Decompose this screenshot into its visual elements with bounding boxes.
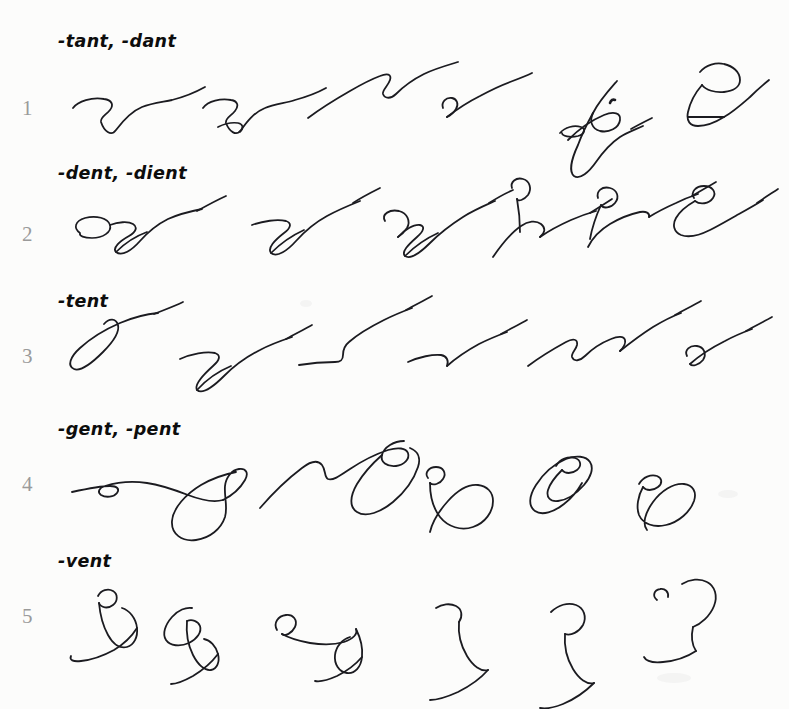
outline-gent-4	[530, 457, 592, 514]
outline-vent-3	[276, 615, 363, 681]
scan-speck	[300, 300, 312, 307]
outline-tant-3	[308, 62, 458, 118]
row-heading-1: -tant, -dant	[58, 31, 176, 51]
outline-tant-6	[687, 63, 769, 126]
outline-tant-2	[203, 88, 326, 133]
outline-gent-3	[427, 467, 493, 532]
outline-dent-6	[674, 186, 778, 236]
row-number-2: 2	[22, 222, 33, 247]
outline-dent-2	[252, 188, 380, 255]
outline-dent-5	[588, 182, 716, 247]
outline-vent-5	[540, 604, 594, 709]
scan-speck	[657, 673, 691, 683]
row-heading-3: -tent	[58, 291, 108, 311]
scan-speck	[718, 490, 738, 498]
row-heading-5: -vent	[58, 551, 111, 571]
outline-gent-5	[638, 475, 695, 530]
outline-tent-6	[686, 317, 772, 365]
outline-tent-3	[299, 296, 432, 365]
outline-tent-1	[70, 302, 183, 370]
outline-tent-2	[180, 325, 312, 391]
outline-dent-1	[76, 196, 226, 254]
row-number-4: 4	[22, 472, 33, 497]
outline-tent-5	[528, 301, 701, 366]
outline-vent-2	[164, 608, 218, 684]
outline-tent-4	[408, 320, 527, 366]
shorthand-drill-page: -tant, -dant 1 -dent, -dient 2 -tent 3 -…	[0, 0, 789, 709]
row-number-3: 3	[22, 344, 33, 369]
row-number-1: 1	[22, 96, 33, 121]
outline-gent-1	[72, 469, 247, 540]
row-number-5: 5	[22, 604, 33, 629]
outline-vent-6	[644, 580, 716, 663]
outline-dent-3	[384, 190, 513, 257]
outline-tant-5	[560, 81, 652, 177]
outline-tant-4	[443, 73, 532, 117]
shorthand-outlines-layer	[0, 0, 789, 709]
outline-dent-4	[493, 179, 612, 257]
row-heading-4: -gent, -pent	[58, 419, 181, 439]
outline-vent-4	[430, 604, 488, 700]
outline-gent-2	[260, 441, 419, 514]
outline-vent-1	[70, 590, 137, 662]
row-heading-2: -dent, -dient	[58, 163, 187, 183]
outline-tant-1	[73, 87, 205, 133]
